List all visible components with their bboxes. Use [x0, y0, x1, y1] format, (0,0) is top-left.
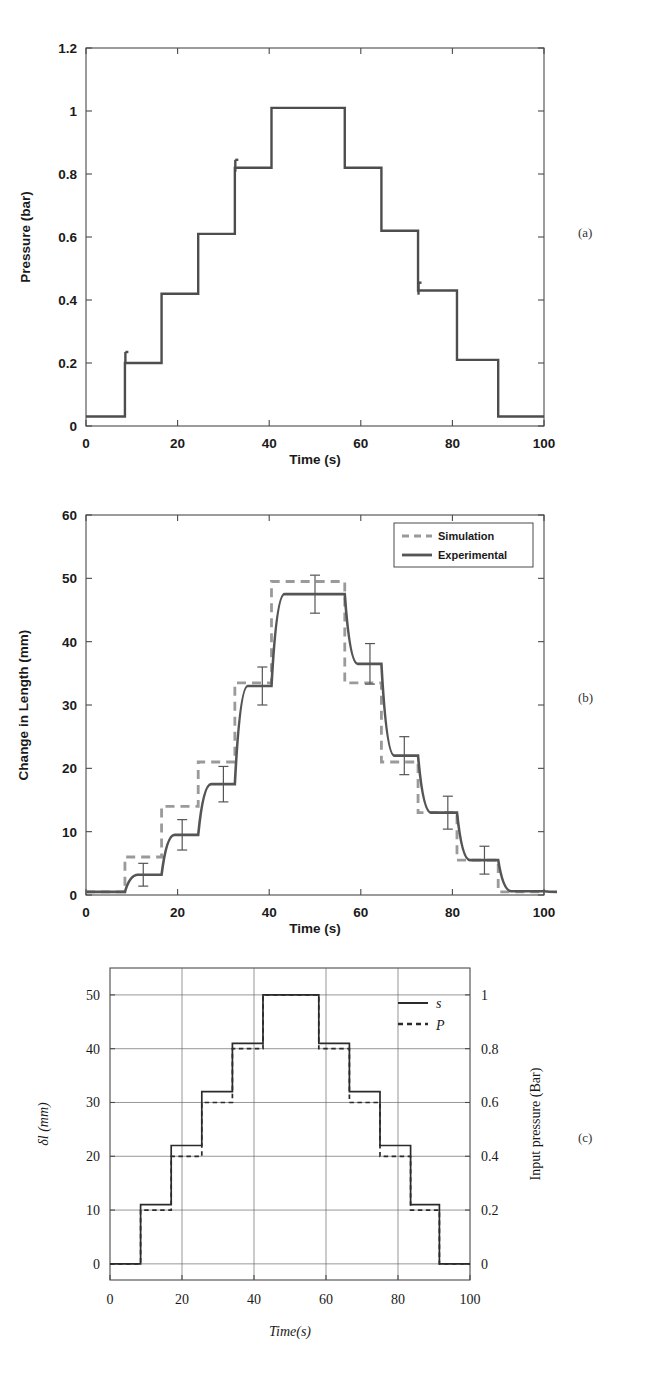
svg-text:0.2: 0.2 — [481, 1203, 499, 1218]
panel-c-y-right-ticklabels: 00.20.40.60.81 — [481, 988, 499, 1272]
panel-c-legend-label-s: s — [436, 996, 442, 1011]
svg-text:60: 60 — [319, 1292, 333, 1307]
panel-a: 020406080100 00.20.40.60.811.2 Time (s) … — [0, 0, 560, 470]
svg-text:0: 0 — [93, 1257, 100, 1272]
svg-text:0: 0 — [69, 888, 77, 903]
panel-b-x-axis-title: Time (s) — [289, 921, 341, 936]
panel-a-x-ticklabels: 020406080100 — [82, 436, 555, 451]
svg-text:40: 40 — [247, 1292, 261, 1307]
panel-b-experimental-curve — [86, 594, 557, 892]
panel-c-x-ticks — [110, 1275, 470, 1280]
panel-b-legend-label-experimental: Experimental — [438, 549, 507, 561]
panel-b-error-bars — [138, 575, 489, 886]
svg-text:60: 60 — [353, 905, 368, 920]
svg-text:50: 50 — [86, 988, 100, 1003]
panel-c-y-right-axis-title: Input pressure (Bar) — [528, 1067, 544, 1180]
panel-c-svg: 020406080100 01020304050 00.20.40.60.81 … — [0, 940, 560, 1398]
panel-c-displacement-curve — [110, 995, 470, 1264]
panel-a-y-ticklabels: 00.20.40.60.811.2 — [58, 41, 77, 434]
svg-text:10: 10 — [62, 825, 77, 840]
panel-c-legend: s P — [398, 996, 445, 1033]
svg-text:40: 40 — [86, 1042, 100, 1057]
panel-b-y-axis-title: Change in Length (mm) — [16, 630, 31, 781]
panel-b-y-ticklabels: 0102030405060 — [62, 508, 77, 903]
svg-text:0.8: 0.8 — [58, 167, 77, 182]
svg-text:100: 100 — [460, 1292, 481, 1307]
panel-a-svg: 020406080100 00.20.40.60.811.2 Time (s) … — [0, 0, 560, 470]
panel-b-letter: (b) — [578, 690, 593, 706]
svg-text:0.4: 0.4 — [481, 1149, 499, 1164]
svg-text:80: 80 — [445, 905, 460, 920]
panel-a-frame — [86, 48, 544, 426]
svg-text:20: 20 — [175, 1292, 189, 1307]
panel-a-pressure-curve — [86, 108, 544, 417]
panel-c-letter: (c) — [578, 1130, 592, 1146]
svg-text:1: 1 — [69, 104, 77, 119]
svg-text:0.6: 0.6 — [58, 230, 77, 245]
svg-text:0.2: 0.2 — [58, 356, 77, 371]
svg-text:1.2: 1.2 — [58, 41, 77, 56]
panel-a-letter: (a) — [578, 225, 592, 241]
panel-a-y-ticks — [86, 48, 544, 426]
panel-c-y-left-ticklabels: 01020304050 — [86, 988, 100, 1272]
panel-b-legend: Simulation Experimental — [394, 523, 533, 567]
svg-text:1: 1 — [481, 988, 488, 1003]
panel-b-svg: 020406080100 0102030405060 Simulation Ex… — [0, 470, 560, 940]
svg-text:100: 100 — [533, 905, 556, 920]
panel-b-y-ticks — [86, 515, 544, 895]
svg-text:60: 60 — [62, 508, 77, 523]
panel-c-frame — [110, 968, 470, 1280]
panel-c-y-left-ticks — [110, 995, 115, 1264]
panel-c-pressure-curve — [110, 995, 470, 1264]
svg-text:60: 60 — [353, 436, 368, 451]
svg-text:30: 30 — [62, 698, 77, 713]
svg-text:100: 100 — [533, 436, 556, 451]
svg-text:80: 80 — [391, 1292, 405, 1307]
svg-text:0: 0 — [69, 419, 77, 434]
svg-text:10: 10 — [86, 1203, 100, 1218]
svg-text:20: 20 — [86, 1149, 100, 1164]
panel-c-y-left-axis-title: δl (mm) — [36, 1102, 52, 1146]
panel-a-y-axis-title: Pressure (bar) — [18, 191, 33, 283]
panel-c-gridlines — [110, 968, 470, 1280]
panel-b: 020406080100 0102030405060 Simulation Ex… — [0, 470, 560, 940]
panel-a-x-axis-title: Time (s) — [289, 452, 341, 467]
panel-b-x-ticklabels: 020406080100 — [82, 905, 555, 920]
panel-b-simulation-curve — [86, 582, 544, 892]
svg-text:0: 0 — [481, 1257, 488, 1272]
panel-c-y-right-ticks — [465, 995, 470, 1264]
panel-c-legend-label-p: P — [435, 1018, 445, 1033]
svg-text:0.4: 0.4 — [58, 293, 77, 308]
svg-text:0: 0 — [82, 905, 90, 920]
svg-text:20: 20 — [62, 761, 77, 776]
panel-b-legend-label-simulation: Simulation — [438, 530, 495, 542]
panel-a-x-ticks — [86, 48, 544, 426]
panel-c: 020406080100 01020304050 00.20.40.60.81 … — [0, 940, 560, 1398]
svg-text:0.8: 0.8 — [481, 1042, 499, 1057]
panel-c-x-axis-title: Time(s) — [269, 1324, 311, 1340]
svg-text:50: 50 — [62, 571, 77, 586]
figure-container: 020406080100 00.20.40.60.811.2 Time (s) … — [0, 0, 653, 1398]
svg-text:80: 80 — [445, 436, 460, 451]
panel-c-x-ticklabels: 020406080100 — [107, 1292, 481, 1307]
svg-text:20: 20 — [170, 905, 185, 920]
svg-text:20: 20 — [170, 436, 185, 451]
svg-text:0: 0 — [107, 1292, 114, 1307]
panel-b-frame — [86, 515, 544, 895]
panel-b-x-ticks — [86, 515, 544, 895]
svg-text:40: 40 — [262, 436, 277, 451]
svg-text:40: 40 — [262, 905, 277, 920]
svg-text:40: 40 — [62, 635, 77, 650]
svg-text:0.6: 0.6 — [481, 1095, 499, 1110]
svg-text:0: 0 — [82, 436, 90, 451]
svg-text:30: 30 — [86, 1095, 100, 1110]
